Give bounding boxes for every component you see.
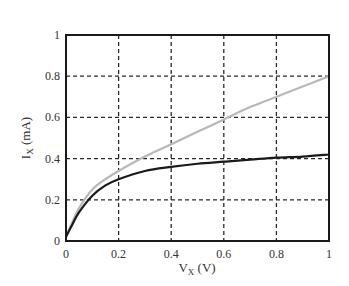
y-tick-label: 0: [54, 234, 60, 248]
y-tick-label: 0.4: [45, 152, 60, 166]
x-tick-label: 0.2: [111, 247, 126, 261]
y-tick-label: 1: [54, 28, 60, 42]
y-tick-labels: 00.20.40.60.81: [45, 28, 60, 248]
grid-lines: [66, 35, 329, 241]
y-axis-label: IX (mA): [18, 117, 35, 159]
x-axis-label: VX (V): [178, 260, 215, 277]
y-tick-label: 0.8: [45, 69, 60, 83]
x-tick-label: 0.4: [164, 247, 179, 261]
plot-frame: [66, 35, 329, 241]
y-tick-label: 0.6: [45, 110, 60, 124]
y-tick-label: 0.2: [45, 193, 60, 207]
x-tick-label: 0.6: [216, 247, 231, 261]
x-tick-labels: 00.20.40.60.81: [63, 247, 332, 261]
x-tick-label: 0.8: [269, 247, 284, 261]
series-black-curve: [66, 154, 329, 236]
x-tick-label: 1: [326, 247, 332, 261]
x-tick-label: 0: [63, 247, 69, 261]
data-curves: [66, 76, 329, 237]
chart: 00.20.40.60.81 00.20.40.60.81 VX (V) IX …: [0, 0, 349, 286]
